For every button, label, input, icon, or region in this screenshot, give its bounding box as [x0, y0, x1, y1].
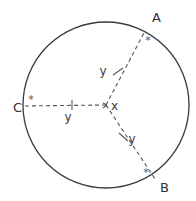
circle-diagram: A B C * * * y y y x: [0, 0, 196, 201]
tick-mark-radius-a: [113, 68, 123, 75]
point-label-a: A: [152, 10, 161, 25]
radius-line-to-c: [23, 105, 106, 106]
point-label-b: B: [160, 180, 169, 195]
asterisk-marks-group: * * *: [28, 34, 151, 179]
radius-label-c: y: [64, 110, 71, 124]
radius-lines-group: [23, 31, 155, 179]
radius-label-b: y: [128, 132, 135, 146]
asterisk-mark-a: *: [145, 34, 151, 47]
radius-label-a: y: [99, 64, 106, 78]
asterisk-mark-b: *: [143, 166, 149, 179]
point-label-c: C: [13, 100, 22, 115]
asterisk-mark-c: *: [28, 93, 34, 106]
diagram-canvas: A B C * * * y y y x: [0, 0, 196, 201]
radius-line-to-a: [106, 31, 145, 105]
center-angle-label: x: [111, 99, 118, 113]
